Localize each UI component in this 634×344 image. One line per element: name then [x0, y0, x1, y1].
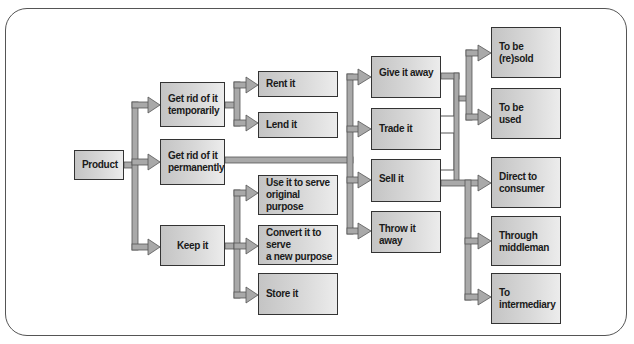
node-throw-it-away: Throw it away	[371, 211, 441, 253]
node-throw-it-away-label: Throw it away	[379, 223, 440, 247]
node-give-it-away-label: Give it away	[379, 67, 433, 79]
node-new-purpose: Convert it to serve a new purpose	[258, 225, 338, 265]
node-lend-it-label: Lend it	[266, 119, 297, 131]
node-get-rid-temporarily: Get rid of it temporarily	[160, 82, 225, 127]
node-trade-it: Trade it	[371, 108, 441, 150]
node-direct-to-consumer: Direct to consumer	[491, 157, 561, 208]
node-to-be-resold: To be (re)sold	[491, 27, 561, 78]
node-direct-to-consumer-label: Direct to consumer	[499, 171, 544, 195]
node-through-middleman: Through middleman	[491, 216, 561, 266]
node-keep-it-label: Keep it	[177, 240, 208, 252]
temporarily-connector	[225, 77, 258, 131]
node-original-purpose-label: Use it to serve original purpose	[266, 177, 337, 213]
node-sell-it: Sell it	[371, 159, 441, 202]
node-product: Product	[74, 150, 124, 180]
node-store-it-label: Store it	[266, 288, 298, 300]
node-to-be-resold-label: To be (re)sold	[499, 41, 533, 65]
node-original-purpose: Use it to serve original purpose	[258, 175, 338, 215]
node-trade-it-label: Trade it	[379, 123, 412, 135]
resale-connector	[441, 45, 491, 181]
node-get-rid-temporarily-label: Get rid of it temporarily	[168, 93, 219, 117]
sell-connector	[441, 175, 491, 305]
node-store-it: Store it	[258, 273, 338, 315]
keep-connector	[225, 185, 258, 303]
node-rent-it-label: Rent it	[266, 78, 295, 90]
node-through-middleman-label: Through middleman	[499, 230, 549, 254]
node-get-rid-permanently: Get rid of it permanently	[160, 139, 225, 185]
node-get-rid-permanently-label: Get rid of it permanently	[168, 150, 224, 174]
node-to-intermediary-label: To intermediary	[499, 287, 555, 311]
node-give-it-away: Give it away	[371, 56, 441, 98]
node-to-intermediary: To intermediary	[491, 273, 561, 324]
node-rent-it: Rent it	[258, 71, 338, 97]
node-lend-it: Lend it	[258, 112, 338, 138]
node-to-be-used-label: To be used	[499, 102, 523, 126]
node-new-purpose-label: Convert it to serve a new purpose	[266, 227, 337, 263]
node-to-be-used: To be used	[491, 88, 561, 139]
node-product-label: Product	[82, 159, 118, 171]
node-sell-it-label: Sell it	[379, 173, 404, 185]
product-connector	[124, 97, 160, 255]
node-keep-it: Keep it	[160, 225, 225, 266]
